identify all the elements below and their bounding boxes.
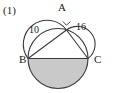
vertex-label-b: B	[19, 54, 26, 65]
vertex-label-c: C	[94, 54, 101, 65]
segment-length-ac: 16	[76, 22, 86, 32]
vertex-label-a: A	[58, 2, 66, 13]
geometry-figure: (1) A B C 10 16	[0, 0, 113, 93]
segment-length-ab: 10	[29, 25, 39, 35]
shaded-semicircle-region	[28, 59, 88, 89]
right-angle-mark-icon	[63, 21, 71, 25]
figure-canvas	[0, 0, 113, 93]
figure-index-label: (1)	[3, 5, 16, 16]
